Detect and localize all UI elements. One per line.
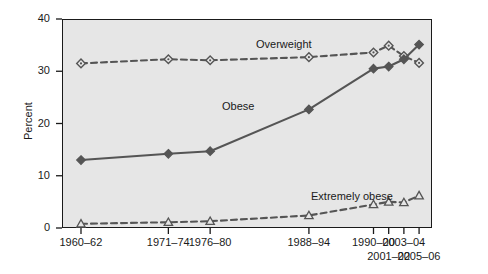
x-axis-tick-label: 1976–80 — [189, 236, 232, 248]
series-annotation: Overweight — [256, 38, 312, 50]
series-annotation: Extremely obese — [311, 190, 393, 202]
y-axis-tick-label: 10 — [16, 169, 50, 181]
y-axis-tick-label: 30 — [16, 64, 50, 76]
y-axis-tick-label: 40 — [16, 12, 50, 24]
x-axis-tick-label: 1971–74 — [147, 236, 190, 248]
x-axis-tick-label: 1960–62 — [59, 236, 102, 248]
y-axis-tick-label: 0 — [16, 221, 50, 233]
x-axis-tick-label: 2005–06 — [398, 250, 441, 262]
x-axis-tick-label: 2003–04 — [382, 236, 425, 248]
series-annotation: Obese — [222, 100, 254, 112]
y-axis-tick-label: 20 — [16, 117, 50, 129]
x-axis-tick-label: 1988–94 — [287, 236, 330, 248]
chart-container: Percent 0102030401960–621971–741976–8019… — [0, 0, 488, 274]
